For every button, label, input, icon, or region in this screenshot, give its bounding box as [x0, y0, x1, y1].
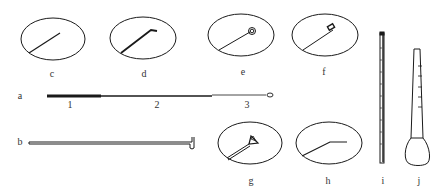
label-a-part-2: 2: [155, 100, 160, 110]
tool-j-bulb-dropper: [405, 49, 429, 166]
label-j: j: [418, 176, 421, 186]
label-a: a: [18, 91, 22, 101]
label-f: f: [322, 67, 325, 77]
label-a-part-3: 3: [245, 100, 250, 110]
label-i: i: [382, 176, 385, 186]
label-a-part-1: 1: [68, 100, 73, 110]
tool-c-straight-needle: [21, 18, 85, 60]
tool-f-square-loop: [292, 14, 358, 56]
diagram-canvas: [0, 0, 445, 192]
tool-a-inoculating-loop: [47, 93, 273, 97]
tool-b-hooked-rod: [29, 137, 194, 149]
label-g: g: [249, 176, 254, 186]
label-d: d: [142, 69, 147, 79]
label-e: e: [241, 67, 245, 77]
tool-d-bent-needle: [110, 17, 176, 59]
tool-g-triangle-loop: [218, 122, 282, 164]
tool-i-graduated-pipette: [380, 32, 384, 163]
tool-e-coiled-loop: [208, 14, 274, 56]
label-b: b: [18, 137, 23, 147]
label-c: c: [50, 69, 54, 79]
tool-h-angled-needle: [296, 122, 362, 164]
label-h: h: [326, 176, 331, 186]
